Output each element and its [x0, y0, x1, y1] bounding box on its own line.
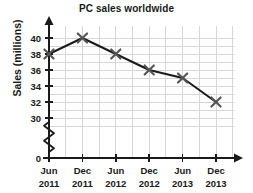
x-tick-label-month: Jun	[107, 165, 124, 176]
x-tick-label-year: 2012	[105, 178, 126, 189]
x-tick-label-year: 2013	[205, 178, 226, 189]
gridlines-group	[49, 26, 235, 158]
x-tick-label-month: Dec	[74, 165, 91, 176]
y-tick-label: 40	[30, 33, 41, 44]
y-tick-label: 36	[30, 65, 41, 76]
y-tick-label: 32	[30, 97, 41, 108]
plot-area: 0303234363840 Jun2011Dec2011Jun2012Dec20…	[0, 0, 253, 193]
y-tick-label: 38	[30, 49, 41, 60]
x-tick-label-month: Dec	[140, 165, 157, 176]
x-tick-label-month: Jun	[41, 165, 58, 176]
x-tick-label-year: 2013	[172, 178, 193, 189]
x-tick-label-year: 2011	[72, 178, 93, 189]
x-tick-label-month: Jun	[174, 165, 191, 176]
y-tick-label: 0	[36, 153, 41, 164]
chart-container: PC sales worldwide Sales (millions) 0303…	[0, 0, 253, 193]
y-tick-label: 34	[30, 81, 41, 92]
y-tick-label: 30	[30, 113, 41, 124]
x-tick-label-year: 2011	[39, 178, 60, 189]
x-tick-group: Jun2011Dec2011Jun2012Dec2012Jun2013Dec20…	[39, 154, 227, 189]
x-tick-label-month: Dec	[207, 165, 224, 176]
x-tick-label-year: 2012	[139, 178, 160, 189]
